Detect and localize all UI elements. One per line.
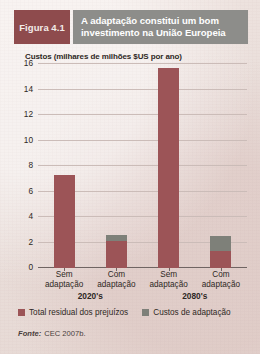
x-tick-label: Comadaptação: [202, 270, 240, 289]
legend-item: Custos de adaptação: [142, 308, 230, 317]
figure-number-badge: Figura 4.1: [14, 10, 70, 44]
x-group-label: 2020's: [78, 291, 103, 301]
legend-item: Total residual dos prejuízos: [18, 308, 128, 317]
bar-segment-residual-damage: [106, 241, 127, 268]
bar-segment-adaptation-cost: [210, 236, 231, 251]
y-tick-label: 8: [28, 160, 33, 170]
figure-title-line-2: investimento na União Europeia: [81, 27, 226, 38]
x-tick-label-line: Com: [212, 270, 229, 279]
gridline: 16: [38, 63, 247, 64]
y-tick-label: 14: [24, 84, 33, 94]
gridline: 14: [38, 89, 247, 90]
y-tick-label: 0: [28, 262, 33, 272]
figure-title-line-1: A adaptação constitui um bom: [81, 15, 219, 26]
x-tick-label-line: Sem: [56, 270, 73, 279]
gridline: 10: [38, 140, 247, 141]
figure-tag-prefix: Figura: [19, 22, 49, 33]
figure-header: Figura 4.1 A adaptação constitui um bom …: [14, 10, 248, 44]
bar-segment-adaptation-cost: [106, 235, 127, 241]
x-tick-label: Comadaptação: [97, 270, 135, 289]
figure-title: A adaptação constitui um bom investiment…: [81, 15, 226, 38]
source-label: Fonte:: [18, 329, 41, 338]
x-group-label: 2080's: [182, 291, 207, 301]
bar-segment-residual-damage: [210, 251, 231, 268]
x-tick-label: Semadaptação: [150, 270, 188, 289]
y-axis-title: Custos (milhares de milhões $US por ano): [25, 52, 182, 61]
x-axis-tick-labels: SemadaptaçãoComadaptaçãoSemadaptaçãoComa…: [38, 270, 247, 292]
bar-segment-residual-damage: [54, 175, 75, 268]
bar-segment-residual-damage: [158, 68, 179, 268]
chart-legend: Total residual dos prejuízosCustos de ad…: [18, 308, 231, 317]
figure-title-bar: A adaptação constitui um bom investiment…: [73, 10, 248, 44]
y-tick-label: 4: [28, 211, 33, 221]
figure-tag-number: 4.1: [51, 22, 65, 33]
bar: [158, 68, 179, 268]
x-tick-label: Semadaptação: [45, 270, 83, 289]
y-tick-label: 10: [24, 135, 33, 145]
gridline: 8: [38, 165, 247, 166]
x-tick-label-line: Sem: [160, 270, 177, 279]
x-tick-label-line: adaptação: [150, 280, 188, 289]
legend-label: Custos de adaptação: [153, 308, 230, 317]
x-tick-label-line: adaptação: [45, 280, 83, 289]
bar: [54, 175, 75, 268]
bar: [210, 236, 231, 268]
y-tick-label: 6: [28, 186, 33, 196]
source-value: CEC 2007b.: [44, 329, 85, 338]
legend-label: Total residual dos prejuízos: [29, 308, 128, 317]
figure-container: Figura 4.1 A adaptação constitui um bom …: [0, 0, 260, 354]
plot-canvas: 0246810121416: [38, 64, 247, 268]
y-tick-label: 16: [24, 58, 33, 68]
bar: [106, 235, 127, 268]
plot-area: 0246810121416: [14, 64, 247, 268]
x-tick-label-line: adaptação: [202, 280, 240, 289]
source-note: Fonte:CEC 2007b.: [18, 329, 86, 338]
x-axis-group-labels: 2020's2080's: [38, 291, 247, 303]
y-tick-label: 2: [28, 237, 33, 247]
gridline: 12: [38, 114, 247, 115]
x-tick-label-line: adaptação: [97, 280, 135, 289]
y-tick-label: 12: [24, 109, 33, 119]
legend-swatch: [18, 309, 25, 316]
legend-swatch: [142, 309, 149, 316]
x-tick-label-line: Com: [108, 270, 125, 279]
